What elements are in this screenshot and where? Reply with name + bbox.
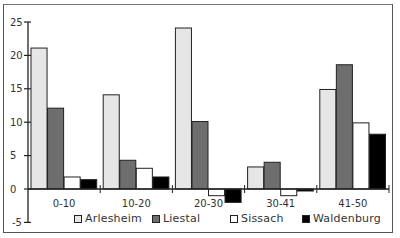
y-tick-label: 10 — [10, 117, 23, 128]
x-category-label: 30-41 — [266, 198, 295, 209]
legend-swatch-arlesheim — [74, 215, 82, 223]
legend-item-waldenburg: Waldenburg — [302, 212, 381, 225]
bar-chart: 2520151050-50-1010-2020-3030-4141-50 — [0, 0, 400, 238]
bar-arlesheim — [320, 89, 336, 189]
bar-waldenburg — [153, 177, 169, 189]
legend-label: Waldenburg — [313, 212, 381, 225]
bar-waldenburg — [369, 134, 385, 189]
bar-waldenburg — [225, 189, 241, 202]
legend-item-arlesheim: Arlesheim — [74, 212, 142, 225]
y-tick-label: 25 — [10, 17, 23, 28]
bar-arlesheim — [248, 167, 264, 189]
bar-liestal — [120, 160, 136, 189]
bar-liestal — [192, 122, 208, 189]
y-tick-label: -5 — [12, 217, 22, 228]
y-tick-label: 15 — [10, 83, 23, 94]
legend: Arlesheim Liestal Sissach Waldenburg — [70, 212, 390, 226]
y-tick-label: 5 — [10, 150, 16, 161]
x-category-label: 10-20 — [122, 198, 151, 209]
bar-sissach — [353, 123, 369, 189]
legend-label: Sissach — [241, 212, 284, 225]
bar-sissach — [64, 177, 80, 189]
x-category-label: 20-30 — [194, 198, 223, 209]
legend-swatch-liestal — [152, 215, 160, 223]
legend-label: Arlesheim — [85, 212, 142, 225]
legend-label: Liestal — [163, 212, 200, 225]
bar-arlesheim — [175, 28, 191, 189]
bar-sissach — [209, 189, 225, 196]
bar-sissach — [136, 168, 152, 189]
bar-sissach — [281, 189, 297, 196]
bar-liestal — [264, 162, 280, 189]
bar-liestal — [336, 65, 352, 189]
bar-waldenburg — [81, 180, 97, 189]
x-category-label: 41-50 — [338, 198, 367, 209]
y-tick-label: 20 — [10, 50, 23, 61]
bar-arlesheim — [103, 95, 119, 189]
legend-item-liestal: Liestal — [152, 212, 200, 225]
x-category-label: 0-10 — [53, 198, 76, 209]
bar-liestal — [48, 108, 64, 189]
legend-item-sissach: Sissach — [230, 212, 284, 225]
legend-swatch-waldenburg — [302, 215, 310, 223]
bar-arlesheim — [31, 48, 47, 189]
y-tick-label: 0 — [10, 184, 16, 195]
legend-swatch-sissach — [230, 215, 238, 223]
